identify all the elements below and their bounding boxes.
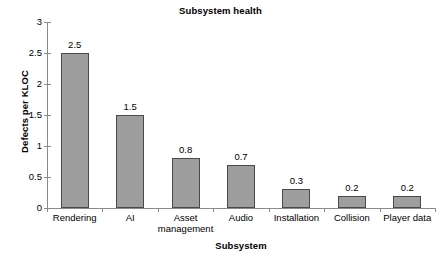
y-tick-mark [44, 115, 51, 116]
x-axis-title: Subsystem [47, 240, 435, 251]
y-tick-mark [44, 22, 51, 23]
y-tick-label: 2 [37, 79, 42, 89]
bar-value-label: 0.8 [161, 145, 211, 155]
x-category-label: Rendering [47, 212, 102, 223]
y-tick-label: 1 [37, 141, 42, 151]
bar[interactable] [393, 196, 421, 208]
x-category-label: Audio [213, 212, 268, 223]
bar[interactable] [338, 196, 366, 208]
bar-value-label: 2.5 [50, 40, 100, 50]
bar-value-label: 0.2 [382, 183, 432, 193]
chart-title: Subsystem health [0, 5, 441, 16]
x-category-label: Installation [269, 212, 324, 223]
y-tick-label: 1.5 [29, 110, 42, 120]
bar[interactable] [282, 189, 310, 208]
y-tick-mark [44, 146, 51, 147]
x-category-label: Player data [380, 212, 435, 223]
bar-chart: Subsystem health Defects per KLOC 00.511… [0, 0, 441, 265]
y-tick-label: 2.5 [29, 48, 42, 58]
bar[interactable] [116, 115, 144, 208]
x-axis-line [47, 208, 435, 209]
x-category-label: AI [102, 212, 157, 223]
y-tick-mark [44, 84, 51, 85]
x-tick-mark [435, 208, 436, 212]
bar-value-label: 0.2 [327, 183, 377, 193]
bar-value-label: 1.5 [105, 102, 155, 112]
bar-value-label: 0.3 [271, 176, 321, 186]
y-tick-label: 0.5 [29, 172, 42, 182]
y-tick-mark [44, 177, 51, 178]
y-tick-label: 3 [37, 17, 42, 27]
x-category-label: Asset management [158, 212, 213, 234]
bar-value-label: 0.7 [216, 152, 266, 162]
x-category-label: Collision [324, 212, 379, 223]
y-tick-label: 0 [37, 203, 42, 213]
bar[interactable] [227, 165, 255, 208]
bar[interactable] [172, 158, 200, 208]
plot-area: 00.511.522.53 2.51.50.80.70.30.20.2 Rend… [47, 22, 435, 208]
bar[interactable] [61, 53, 89, 208]
y-tick-mark [44, 53, 51, 54]
